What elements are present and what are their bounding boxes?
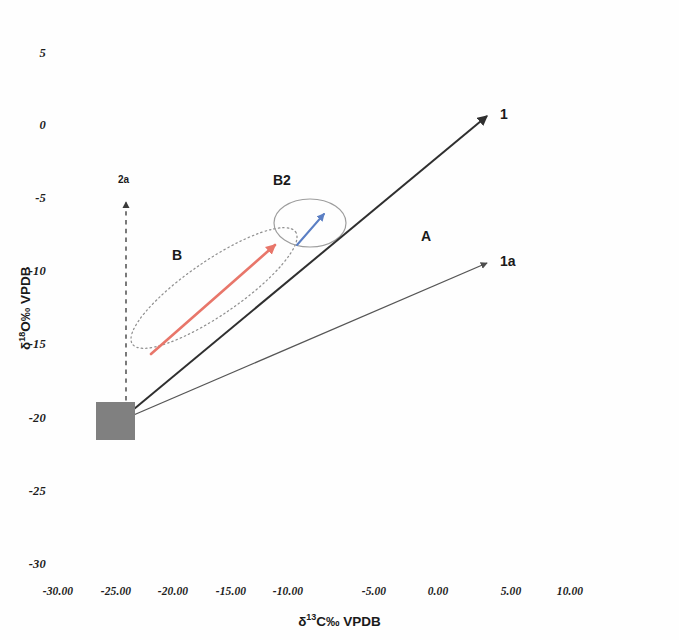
vector-1: [122, 116, 487, 419]
x-axis-title: δ13C‰ VPDB: [0, 612, 679, 629]
x-axis-title-superscript: 13: [306, 612, 316, 622]
y-axis-title-superscript: 18: [17, 332, 27, 342]
y-axis-title-delta: δ: [18, 342, 33, 350]
x-tick-label: -10.00: [250, 585, 326, 597]
vector-label-1: 1: [500, 106, 508, 122]
region-label-a: A: [421, 228, 431, 244]
chart-canvas: 5 0 -5 -10 -15 -20 -25 -30 -30.00 -25.00…: [0, 0, 679, 640]
y-axis-title: δ18O‰ VPDB: [17, 243, 34, 373]
region-label-b: B: [172, 247, 182, 263]
y-tick-label: -5: [0, 191, 46, 206]
region-ellipse-b2: [274, 199, 346, 247]
x-tick-label: 0.00: [400, 585, 476, 597]
x-axis-title-rest: C‰ VPDB: [316, 614, 381, 629]
y-tick-label: 0: [0, 118, 46, 133]
vector-trend-b2: [297, 214, 324, 245]
y-axis-title-rest: O‰ VPDB: [18, 267, 33, 332]
plot-vector-layer: [0, 0, 679, 640]
y-tick-label: -25: [0, 484, 46, 499]
vector-1a: [122, 263, 487, 420]
region-label-b2: B2: [273, 172, 291, 188]
y-tick-label: -20: [0, 411, 46, 426]
y-tick-label: -30: [0, 557, 46, 572]
vector-label-2a: 2a: [118, 174, 129, 185]
y-tick-label: 5: [0, 46, 46, 61]
vector-label-1a: 1a: [500, 253, 516, 269]
marker-starting-composition: [96, 402, 135, 440]
vector-trend-b: [151, 245, 275, 354]
x-tick-label: 10.00: [532, 585, 608, 597]
